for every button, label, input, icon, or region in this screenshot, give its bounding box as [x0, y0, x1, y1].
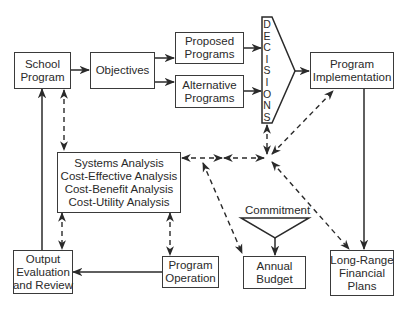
objectives-box: Objectives: [90, 52, 155, 89]
proposed-programs-line1: Proposed: [185, 35, 234, 48]
analysis-line4: Cost-Utility Analysis: [69, 196, 170, 209]
long-range-line3: Plans: [348, 280, 377, 293]
program-implementation-box: Program Implementation: [310, 52, 394, 89]
school-program-line2: Program: [20, 71, 64, 84]
commitment-label: Commitment: [245, 204, 310, 216]
dashed-hub-budget: [203, 163, 242, 253]
decisions-letter: S: [263, 112, 270, 124]
long-range-plans-box: Long-Range Financial Plans: [330, 250, 394, 296]
alternative-programs-line2: Programs: [185, 92, 235, 105]
output-evaluation-box: Output Evaluation and Review: [13, 250, 73, 294]
alternative-programs-line1: Alternative: [182, 79, 236, 92]
long-range-line1: Long-Range: [330, 254, 393, 267]
output-evaluation-line3: and Review: [13, 279, 73, 292]
objectives-label: Objectives: [96, 64, 150, 77]
analysis-line3: Cost-Benefit Analysis: [65, 183, 174, 196]
decisions-letter: N: [263, 100, 271, 112]
school-program-line1: School: [25, 58, 60, 71]
alternative-programs-box: Alternative Programs: [175, 75, 244, 108]
analysis-line1: Systems Analysis: [74, 157, 163, 170]
program-operation-line2: Operation: [165, 272, 216, 285]
program-operation-line1: Program: [168, 259, 212, 272]
output-evaluation-line2: Evaluation: [16, 266, 70, 279]
commitment-funnel: [241, 218, 309, 238]
annual-budget-line1: Annual: [257, 260, 293, 273]
program-implementation-line1: Program: [330, 58, 374, 71]
decisions-label: D E C I S I O N S: [262, 19, 272, 123]
program-operation-box: Program Operation: [162, 256, 219, 288]
output-evaluation-line1: Output: [26, 253, 61, 266]
analysis-line2: Cost-Effective Analysis: [61, 170, 178, 183]
decisions-letter: I: [266, 77, 269, 89]
analysis-box: Systems Analysis Cost-Effective Analysis…: [57, 152, 181, 213]
school-program-box: School Program: [14, 52, 71, 89]
annual-budget-box: Annual Budget: [243, 256, 306, 289]
proposed-programs-box: Proposed Programs: [175, 32, 244, 64]
proposed-programs-line2: Programs: [185, 48, 235, 61]
program-implementation-line2: Implementation: [313, 71, 392, 84]
annual-budget-line2: Budget: [256, 273, 292, 286]
decisions-letter: D: [263, 19, 271, 31]
long-range-line2: Financial: [339, 267, 385, 280]
